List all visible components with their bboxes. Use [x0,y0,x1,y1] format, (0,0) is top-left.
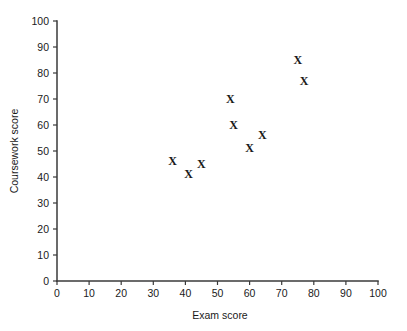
data-point-marker: X [168,154,177,168]
y-tick-label: 10 [37,249,49,261]
x-tick-label: 50 [212,287,224,299]
y-tick-label: 60 [37,119,49,131]
y-tick-label: 20 [37,223,49,235]
x-tick-label: 40 [180,287,192,299]
data-point-marker: X [184,167,193,181]
data-point-marker: X [229,118,238,132]
x-tick-label: 80 [308,287,320,299]
data-point-marker: X [197,157,206,171]
x-axis-ticks: 0102030405060708090100 [54,281,387,299]
x-axis-title: Exam score [192,309,248,321]
x-tick-label: 100 [369,287,387,299]
y-tick-label: 90 [37,41,49,53]
y-tick-label: 40 [37,171,49,183]
data-point-marker: X [226,92,235,106]
x-tick-label: 90 [340,287,352,299]
x-tick-label: 0 [54,287,60,299]
y-tick-label: 70 [37,93,49,105]
data-point-layer: XXXXXXXXX [168,53,309,181]
chart-canvas: 0102030405060708090100 01020304050607080… [0,0,407,331]
x-tick-label: 60 [244,287,256,299]
data-point-marker: X [293,53,302,67]
x-tick-label: 70 [276,287,288,299]
data-point-marker: X [245,141,254,155]
y-tick-label: 80 [37,67,49,79]
data-point-marker: X [300,74,309,88]
y-axis-title: Coursework score [8,109,20,194]
y-axis-ticks: 0102030405060708090100 [31,15,57,287]
y-tick-label: 50 [37,145,49,157]
y-tick-label: 0 [43,275,49,287]
data-point-marker: X [258,128,267,142]
x-tick-label: 30 [147,287,159,299]
x-tick-label: 10 [83,287,95,299]
scatter-chart: 0102030405060708090100 01020304050607080… [0,0,407,331]
x-tick-label: 20 [115,287,127,299]
y-tick-label: 30 [37,197,49,209]
y-tick-label: 100 [31,15,49,27]
